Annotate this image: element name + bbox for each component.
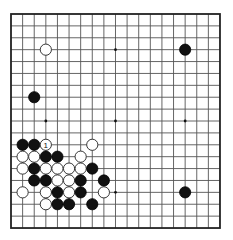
- white-stone-disc: [98, 187, 109, 198]
- star-point: [184, 120, 187, 123]
- move-number-label: 1: [44, 141, 49, 150]
- white-stone: [29, 151, 40, 162]
- white-stone-disc: [63, 187, 74, 198]
- white-stone-disc: [75, 163, 86, 174]
- black-stone-disc: [40, 175, 51, 186]
- black-stone: [75, 187, 86, 198]
- white-stone-disc: [63, 163, 74, 174]
- white-stone-disc: [29, 151, 40, 162]
- white-stone: [52, 175, 63, 186]
- black-stone-disc: [87, 199, 98, 210]
- white-stone: [87, 139, 98, 150]
- white-stone: [40, 44, 51, 55]
- black-stone: [52, 199, 63, 210]
- white-stone: [75, 151, 86, 162]
- black-stone-disc: [29, 92, 40, 103]
- black-stone-disc: [29, 175, 40, 186]
- black-stone: [75, 175, 86, 186]
- white-stone: [98, 187, 109, 198]
- black-stone: [29, 139, 40, 150]
- go-board: 1: [0, 0, 233, 240]
- black-stone: [29, 163, 40, 174]
- black-stone: [29, 92, 40, 103]
- white-stone-disc: [17, 151, 28, 162]
- black-stone: [40, 151, 51, 162]
- white-stone-disc: [40, 199, 51, 210]
- black-stone-disc: [87, 163, 98, 174]
- black-stone-disc: [29, 163, 40, 174]
- black-stone: [98, 175, 109, 186]
- black-stone-disc: [17, 139, 28, 150]
- white-stone: [52, 163, 63, 174]
- white-stone-disc: [52, 163, 63, 174]
- black-stone-disc: [29, 139, 40, 150]
- black-stone: [29, 175, 40, 186]
- black-stone-disc: [75, 175, 86, 186]
- white-stone: [40, 187, 51, 198]
- black-stone-disc: [63, 199, 74, 210]
- black-stone-disc: [180, 187, 191, 198]
- black-stone: [180, 44, 191, 55]
- white-stone: [63, 163, 74, 174]
- star-point: [114, 191, 117, 194]
- star-point: [114, 120, 117, 123]
- black-stone: [52, 151, 63, 162]
- white-stone: [63, 175, 74, 186]
- black-stone: [17, 139, 28, 150]
- white-stone: [17, 163, 28, 174]
- black-stone-disc: [75, 187, 86, 198]
- black-stone: [87, 199, 98, 210]
- black-stone: [52, 187, 63, 198]
- black-stone: [40, 175, 51, 186]
- black-stone-disc: [40, 151, 51, 162]
- white-stone-disc: [40, 44, 51, 55]
- white-stone: [40, 199, 51, 210]
- white-stone: [40, 163, 51, 174]
- white-stone-disc: [40, 187, 51, 198]
- white-stone-disc: [52, 175, 63, 186]
- white-stone: [63, 187, 74, 198]
- white-stone-disc: [75, 151, 86, 162]
- black-stone-disc: [180, 44, 191, 55]
- black-stone: [87, 163, 98, 174]
- white-stone-disc: [40, 163, 51, 174]
- white-stone-disc: [17, 187, 28, 198]
- white-stone: 1: [40, 139, 51, 150]
- white-stone: [75, 163, 86, 174]
- white-stone: [17, 187, 28, 198]
- white-stone-disc: [87, 139, 98, 150]
- black-stone-disc: [98, 175, 109, 186]
- black-stone: [63, 199, 74, 210]
- black-stone-disc: [52, 199, 63, 210]
- white-stone-disc: [17, 163, 28, 174]
- white-stone: [17, 151, 28, 162]
- black-stone-disc: [52, 151, 63, 162]
- black-stone: [180, 187, 191, 198]
- star-point: [44, 120, 47, 123]
- black-stone-disc: [52, 187, 63, 198]
- star-point: [114, 48, 117, 51]
- white-stone-disc: [63, 175, 74, 186]
